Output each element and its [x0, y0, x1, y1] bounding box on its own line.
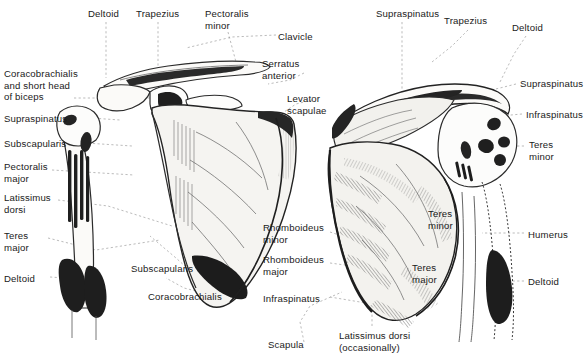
anatomy-label: Coracobrachialis — [148, 291, 222, 303]
anatomy-label: Trapezius — [136, 8, 179, 20]
anatomy-label: Clavicle — [278, 31, 313, 43]
anatomy-label: Supraspinatus — [376, 8, 439, 20]
anatomy-label: Levator scapulae — [287, 93, 327, 116]
anatomy-label: Rhomboideus minor — [263, 222, 324, 245]
anatomy-label: Pectoralis minor — [205, 8, 249, 31]
anatomy-label: Infraspinatus — [526, 109, 583, 121]
anatomy-label: Scapula — [268, 339, 304, 351]
anatomy-label: Coracobrachialis and short head of bicep… — [4, 68, 78, 103]
anatomy-label: Deltoid — [512, 22, 543, 34]
anatomy-label: Teres major — [4, 230, 29, 253]
anatomy-label: Supraspinatus — [520, 78, 583, 90]
anatomy-label: Humerus — [528, 229, 568, 241]
anatomy-label: Pectoralis major — [4, 161, 48, 184]
anatomy-label: Latissimus dorsi — [4, 192, 51, 215]
anatomy-label: Infraspinatus — [263, 293, 320, 305]
anatomy-label: Teres major — [412, 262, 437, 285]
posterior-scapula-view — [328, 84, 516, 342]
anatomy-label: Latissimus dorsi (occasionally) — [339, 330, 410, 353]
anatomy-label: Subscapularis — [131, 263, 193, 275]
anatomy-label: Supraspinatus — [4, 113, 67, 125]
anatomy-figure: DeltoidTrapeziusPectoralis minorClavicle… — [0, 0, 584, 355]
anatomy-label: Teres minor — [529, 139, 554, 162]
anatomy-label: Rhomboideus major — [263, 254, 324, 277]
anatomy-label: Deltoid — [528, 276, 559, 288]
anatomy-label: Trapezius — [444, 15, 487, 27]
anatomy-label: Deltoid — [4, 273, 35, 285]
anatomy-label: Teres minor — [428, 208, 453, 231]
anatomy-label: Subscapularis — [4, 138, 66, 150]
anatomy-label: Deltoid — [88, 8, 119, 20]
anatomy-label: Serratus anterior — [262, 58, 299, 81]
